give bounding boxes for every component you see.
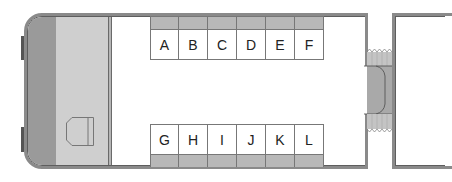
seat-back xyxy=(295,154,323,167)
seat-b[interactable]: B xyxy=(179,16,208,60)
seat-back xyxy=(295,17,323,30)
seat-label[interactable]: F xyxy=(295,30,323,60)
gangway-connector-icon xyxy=(364,48,395,134)
seat-g[interactable]: G xyxy=(150,124,179,167)
seat-back xyxy=(151,154,178,167)
seat-back xyxy=(179,17,207,30)
seat-back xyxy=(266,154,294,167)
seat-label[interactable]: H xyxy=(179,125,207,154)
seat-back xyxy=(208,154,236,167)
seat-label[interactable]: D xyxy=(237,30,265,60)
seat-k[interactable]: K xyxy=(266,124,295,167)
seat-j[interactable]: J xyxy=(237,124,266,167)
seat-label[interactable]: G xyxy=(151,125,178,154)
seat-c[interactable]: C xyxy=(208,16,237,60)
seat-back xyxy=(237,154,265,167)
seat-label[interactable]: L xyxy=(295,125,323,154)
seat-label[interactable]: J xyxy=(237,125,265,154)
seat-label[interactable]: K xyxy=(266,125,294,154)
seat-label[interactable]: B xyxy=(179,30,207,60)
door-icon xyxy=(21,36,24,60)
vestibule-partition xyxy=(108,17,112,165)
seat-back xyxy=(237,17,265,30)
cab-area-dark xyxy=(28,17,56,165)
seat-label[interactable]: C xyxy=(208,30,236,60)
seat-i[interactable]: I xyxy=(208,124,237,167)
seat-f[interactable]: F xyxy=(295,16,324,60)
seat-h[interactable]: H xyxy=(179,124,208,167)
seat-back xyxy=(208,17,236,30)
seat-back xyxy=(266,17,294,30)
door-icon xyxy=(21,127,24,152)
seat-back xyxy=(151,17,178,30)
seat-row-bottom: G H I J K L xyxy=(150,124,324,167)
seat-label[interactable]: A xyxy=(151,30,178,60)
seat-row-top: A B C D E F xyxy=(150,16,324,60)
coach-right-inner-wall xyxy=(395,16,445,166)
seat-e[interactable]: E xyxy=(266,16,295,60)
seat-back xyxy=(179,154,207,167)
toilet-icon xyxy=(66,117,95,146)
seat-label[interactable]: E xyxy=(266,30,294,60)
seat-a[interactable]: A xyxy=(150,16,179,60)
seat-label[interactable]: I xyxy=(208,125,236,154)
seat-d[interactable]: D xyxy=(237,16,266,60)
seat-l[interactable]: L xyxy=(295,124,324,167)
